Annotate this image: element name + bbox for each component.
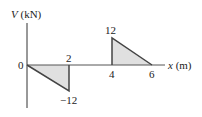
label-pos12: 12 [105,24,116,36]
tick-x4: 4 [109,68,115,80]
origin-label: 0 [18,59,24,71]
shear-diagram: V (kN) x (m) 0 2 4 6 −12 12 [0,0,202,117]
y-axis-label: V (kN) [11,8,42,21]
tick-x2: 2 [66,52,72,64]
x-axis-label: x (m) [167,59,192,72]
label-neg12: −12 [60,94,77,106]
tick-x6: 6 [149,68,155,80]
